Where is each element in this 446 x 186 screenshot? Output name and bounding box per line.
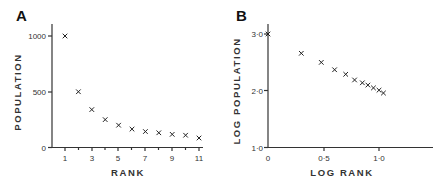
panel-a-x-tick-9: 9 [170, 154, 175, 163]
data-point-x-marker [319, 60, 324, 65]
panel-a-x-tick-11: 11 [195, 154, 204, 163]
data-point-x-marker [343, 72, 348, 77]
panel-b-x-ticks: 0 0·5 1·0 [266, 148, 386, 164]
panel-b-y-ticks: 3·0 2·0 1·0 [251, 30, 268, 153]
data-point-x-marker [63, 34, 68, 39]
panel-b-y-tick-2: 2·0 [251, 87, 263, 96]
panel-b-x-axis-title: LOG RANK [310, 167, 373, 178]
data-point-x-marker [157, 130, 162, 135]
panel-b-x-tick-1-0: 1·0 [373, 154, 385, 163]
panel-a-y-tick-500: 500 [33, 88, 47, 97]
panel-b-y-axis-title: LOG POPULATION [231, 37, 242, 144]
data-point-x-marker [332, 67, 337, 72]
panel-b-y-tick-3: 3·0 [251, 30, 263, 39]
panel-b-label: B [236, 7, 247, 24]
data-point-x-marker [76, 89, 81, 94]
panel-a-x-ticks: 1 3 5 7 9 11 [63, 148, 204, 164]
panel-a: A 1000 500 0 1 3 5 [12, 7, 204, 178]
data-point-x-marker [381, 91, 386, 96]
data-point-x-marker [377, 88, 382, 93]
data-point-x-marker [371, 86, 376, 91]
data-point-x-marker [130, 127, 135, 132]
data-point-x-marker [103, 117, 108, 122]
panel-b-x-tick-0: 0 [266, 154, 271, 163]
panel-a-x-tick-7: 7 [143, 154, 148, 163]
data-point-x-marker [299, 51, 304, 56]
data-point-x-marker [366, 83, 371, 88]
panel-a-x-tick-3: 3 [90, 154, 95, 163]
figure: A 1000 500 0 1 3 5 [0, 0, 446, 186]
panel-b-y-tick-1: 1·0 [251, 144, 263, 153]
data-point-x-marker [183, 133, 188, 138]
panel-a-y-ticks: 1000 500 0 [28, 32, 52, 153]
panel-a-y-axis-title: POPULATION [12, 53, 23, 131]
panel-b-data-points [266, 32, 386, 96]
panel-a-data-points [63, 34, 202, 141]
data-point-x-marker [197, 136, 202, 141]
panel-a-x-tick-1: 1 [63, 154, 68, 163]
data-point-x-marker [170, 132, 175, 137]
data-point-x-marker [90, 107, 95, 112]
panel-b-x-tick-0-5: 0·5 [318, 154, 330, 163]
panel-a-y-tick-0: 0 [42, 144, 47, 153]
panel-a-x-tick-5: 5 [116, 154, 121, 163]
data-point-x-marker [143, 129, 148, 134]
panel-a-label: A [16, 7, 27, 24]
panel-b: B 3·0 2·0 1·0 0 0·5 1·0 LOG RANK LOG POP… [231, 7, 433, 178]
data-point-x-marker [352, 78, 357, 83]
panel-a-y-tick-1000: 1000 [28, 32, 46, 41]
data-point-x-marker [360, 81, 365, 86]
panel-a-x-axis-title: RANK [111, 167, 145, 178]
data-point-x-marker [116, 123, 121, 128]
